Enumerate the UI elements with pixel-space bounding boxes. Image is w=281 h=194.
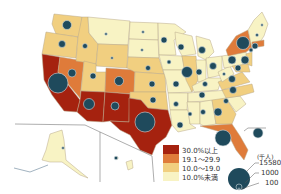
bubble-south-dakota <box>141 49 144 52</box>
bubble-ohio <box>210 63 217 70</box>
bubble-arizona <box>84 99 95 110</box>
bubble-california <box>48 73 68 93</box>
bubble-colorado <box>115 77 124 86</box>
bubble-new-jersey <box>241 56 249 64</box>
bubble-puerto-rico <box>253 128 263 138</box>
alaska-aleutians <box>14 165 48 172</box>
state-alaska <box>42 130 88 178</box>
swatch-19to29 <box>163 154 179 163</box>
bubble-iowa <box>167 60 171 64</box>
color-legend: 30.0%以上 19.1～29.9 10.0～19.0 10.0%未満 <box>163 145 220 181</box>
bubble-maryland <box>235 65 241 71</box>
state-wisconsin <box>175 32 196 56</box>
bubble-texas <box>135 112 155 132</box>
bubble-north-carolina <box>230 87 237 94</box>
bubble-oregon <box>59 41 66 48</box>
bubble-new-york <box>237 37 250 50</box>
size-legend-value-1000: 1000 <box>261 169 279 177</box>
bubble-kentucky <box>203 82 208 87</box>
bubble-missouri <box>173 81 179 87</box>
state-arkansas <box>168 93 188 110</box>
bubble-washington <box>63 21 72 30</box>
bubble-montana <box>105 33 108 36</box>
bubble-massachusetts <box>252 43 258 49</box>
legend-item-lt10: 10.0%未満 <box>163 172 220 181</box>
bubble-indiana <box>196 69 202 75</box>
bubble-pennsylvania <box>228 56 236 64</box>
state-wyoming <box>96 44 128 68</box>
bubble-north-dakota <box>142 31 145 34</box>
state-iowa <box>159 55 185 70</box>
bubble-maine <box>261 24 263 26</box>
bubble-georgia <box>214 108 222 116</box>
bubble-illinois <box>182 67 193 78</box>
bubble-idaho <box>83 44 88 49</box>
bubble-hawaii <box>114 156 118 160</box>
swatch-lt10 <box>163 172 179 181</box>
bubble-nebraska <box>146 66 151 71</box>
bubble-new-mexico <box>111 102 119 110</box>
size-legend-value-100: 100 <box>265 179 278 187</box>
bubble-nevada <box>68 69 76 77</box>
bubble-virginia <box>229 76 236 83</box>
bubble-tennessee <box>199 92 205 98</box>
bubble-oklahoma <box>150 97 156 103</box>
swatch-10to19 <box>163 163 179 172</box>
bubble-new-hampshire <box>256 34 259 37</box>
state-hawaii <box>126 160 133 170</box>
state-south-dakota <box>128 39 159 58</box>
legend-circle-15580 <box>228 168 250 190</box>
bubble-wisconsin <box>178 44 184 50</box>
swatch-30plus <box>163 145 179 154</box>
bubble-arkansas <box>174 102 179 107</box>
bubble-minnesota <box>161 37 167 43</box>
bubble-connecticut <box>249 48 253 52</box>
bubble-kansas <box>149 81 155 87</box>
bubble-wyoming <box>111 57 114 60</box>
bubble-alaska <box>62 147 65 150</box>
size-legend: (千人) 15580 1000 100 <box>225 145 281 193</box>
bubble-alabama <box>201 110 206 115</box>
bubble-south-carolina <box>224 99 229 104</box>
bubble-michigan <box>199 47 206 54</box>
legend-label-lt10: 10.0%未満 <box>182 172 218 182</box>
size-legend-value-15580: 15580 <box>259 159 281 167</box>
inset-border-alaska <box>15 124 100 132</box>
bubble-mississippi <box>188 112 192 116</box>
bubble-utah <box>90 73 96 79</box>
bubble-west-virginia <box>223 73 226 76</box>
bubble-louisiana <box>177 122 183 128</box>
